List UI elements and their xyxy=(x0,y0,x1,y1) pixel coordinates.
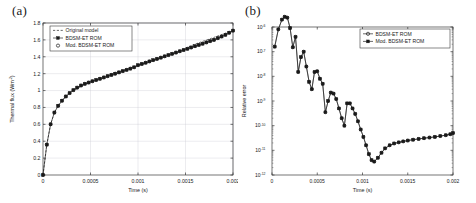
data-marker xyxy=(423,137,426,140)
data-marker xyxy=(365,144,368,147)
svg-text:1: 1 xyxy=(38,87,41,93)
data-marker xyxy=(452,132,455,135)
legend-label: BDSM-ET ROM xyxy=(66,35,102,41)
data-marker xyxy=(340,117,343,120)
data-marker xyxy=(402,140,405,143)
panel-a-label: (a) xyxy=(12,3,27,19)
legend-b: BDSM-ET ROMMod. BDSM-ET ROM xyxy=(360,29,450,48)
data-marker xyxy=(388,144,391,147)
svg-text:0.0005: 0.0005 xyxy=(83,178,99,184)
data-marker xyxy=(359,128,362,131)
data-marker xyxy=(277,28,280,31)
data-marker xyxy=(338,107,341,110)
data-marker xyxy=(406,139,409,142)
data-marker xyxy=(302,50,305,53)
svg-text:0: 0 xyxy=(42,178,45,184)
data-marker xyxy=(300,56,303,59)
svg-text:0.2: 0.2 xyxy=(33,155,40,161)
data-marker xyxy=(327,100,330,103)
data-marker xyxy=(324,111,327,114)
svg-text:0.8: 0.8 xyxy=(33,104,40,110)
panel-b-plot: 10-610-710-810-910-1010-1110-1200.00050.… xyxy=(238,0,476,203)
data-marker xyxy=(273,45,276,48)
svg-text:1.2: 1.2 xyxy=(33,71,40,77)
data-marker xyxy=(310,88,313,91)
data-marker xyxy=(434,136,437,139)
data-marker xyxy=(397,141,400,144)
legend-label: Mod. BDSM-ET ROM xyxy=(66,42,115,48)
data-marker xyxy=(313,71,316,74)
data-marker xyxy=(286,16,289,19)
panel-b: (b) 10-610-710-810-910-1010-1110-1200.00… xyxy=(238,0,476,203)
data-marker xyxy=(439,135,442,138)
x-axis-label: Time (s) xyxy=(353,187,373,193)
data-marker xyxy=(428,136,431,139)
data-marker xyxy=(367,40,370,43)
svg-text:1.8: 1.8 xyxy=(33,20,40,26)
plot-background xyxy=(272,27,453,175)
y-axis-label: Thermal flux (Wm-2) xyxy=(9,75,15,123)
data-marker xyxy=(316,70,319,73)
data-marker xyxy=(351,107,354,110)
x-tick-label: 0.001 xyxy=(356,178,369,184)
svg-text:0.0015: 0.0015 xyxy=(178,178,194,184)
data-marker xyxy=(283,15,286,18)
data-marker xyxy=(346,102,349,105)
data-marker xyxy=(289,27,292,30)
x-axis-label: Time (s) xyxy=(128,187,148,193)
panel-a-plot: 00.20.40.60.811.21.41.61.800.00050.0010.… xyxy=(0,0,238,203)
data-marker xyxy=(281,18,284,21)
data-marker xyxy=(376,156,379,159)
x-tick-label: 0 xyxy=(271,178,274,184)
y-tick-label: 10-11 xyxy=(255,147,265,153)
data-marker xyxy=(343,124,346,127)
data-marker xyxy=(444,134,447,137)
svg-text:1.6: 1.6 xyxy=(33,37,40,43)
svg-text:1.4: 1.4 xyxy=(33,54,40,60)
x-tick-label: 0.0015 xyxy=(400,178,416,184)
svg-text:0: 0 xyxy=(38,172,41,178)
data-marker xyxy=(348,102,351,105)
y-tick-label: 10-9 xyxy=(257,98,266,104)
data-marker xyxy=(308,80,311,83)
figure-container: (a) 00.20.40.60.811.21.41.61.800.00050.0… xyxy=(0,0,476,203)
y-tick-label: 10-10 xyxy=(255,122,266,128)
svg-text:0.002: 0.002 xyxy=(227,178,238,184)
y-tick-label: 10-7 xyxy=(257,48,266,54)
legend-label: BDSM-ET ROM xyxy=(376,31,412,37)
data-marker xyxy=(329,91,332,94)
panel-b-label: (b) xyxy=(245,3,261,19)
data-marker xyxy=(370,159,373,162)
data-marker xyxy=(449,133,452,136)
y-tick-label: 10-12 xyxy=(255,172,266,178)
data-marker xyxy=(305,65,308,68)
svg-text:0.4: 0.4 xyxy=(33,138,40,144)
data-marker xyxy=(357,120,360,123)
legend-label: Original model xyxy=(66,27,99,33)
x-tick-label: 0.0005 xyxy=(310,178,326,184)
data-marker xyxy=(367,153,370,156)
data-marker xyxy=(319,77,322,80)
data-marker xyxy=(57,37,60,40)
data-marker xyxy=(417,138,420,141)
data-marker xyxy=(384,147,387,150)
data-marker xyxy=(373,160,376,163)
y-axis-label: Relative error xyxy=(241,85,247,118)
svg-text:0.6: 0.6 xyxy=(33,121,40,127)
svg-text:0.001: 0.001 xyxy=(132,178,145,184)
data-marker xyxy=(294,35,297,38)
legend-label: Mod. BDSM-ET ROM xyxy=(376,38,425,44)
data-marker xyxy=(335,98,338,101)
data-marker xyxy=(393,142,396,145)
legend-a: Original modelBDSM-ET ROMMod. BDSM-ET RO… xyxy=(50,26,132,51)
panel-a: (a) 00.20.40.60.811.21.41.61.800.00050.0… xyxy=(0,0,238,203)
data-marker xyxy=(332,92,335,95)
x-tick-label: 0.002 xyxy=(447,178,460,184)
data-marker xyxy=(362,136,365,139)
data-marker xyxy=(297,71,300,74)
data-marker xyxy=(412,138,415,141)
y-tick-label: 10-6 xyxy=(257,24,266,30)
data-marker xyxy=(354,112,357,115)
data-marker xyxy=(321,82,324,85)
data-marker xyxy=(291,46,294,49)
